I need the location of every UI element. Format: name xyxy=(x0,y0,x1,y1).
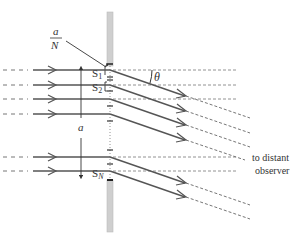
angle-label: θ xyxy=(154,70,160,84)
observer-label-line2: observer xyxy=(255,165,290,176)
slit-n-label: SN xyxy=(92,167,104,181)
screen-lower xyxy=(107,180,113,232)
spacing-numerator: a xyxy=(53,25,59,37)
slit-2-label: S2 xyxy=(92,81,102,95)
spacing-denominator: N xyxy=(50,39,59,51)
diffracted-ray xyxy=(110,114,245,160)
diffracted-rays xyxy=(110,70,250,219)
spacing-label: a N xyxy=(50,25,62,51)
diffracted-ray xyxy=(110,70,250,118)
screen-upper xyxy=(107,12,113,66)
slit-1-label: S1 xyxy=(92,67,102,81)
incoming-ray xyxy=(3,153,110,161)
width-label: a xyxy=(78,121,84,133)
grating-screen xyxy=(105,12,113,232)
incoming-ray xyxy=(3,95,110,103)
diagram-svg: θ a N S1 S2 SN a to distant observer xyxy=(0,0,298,240)
observer-label-line1: to distant xyxy=(252,152,289,163)
spacing-leader-line xyxy=(66,41,106,67)
incoming-ray xyxy=(3,110,110,118)
reference-lines xyxy=(113,70,237,171)
angle-theta: θ xyxy=(150,70,160,84)
diffraction-grating-diagram: θ a N S1 S2 SN a to distant observer xyxy=(0,0,298,240)
observer-label: to distant observer xyxy=(252,152,290,176)
